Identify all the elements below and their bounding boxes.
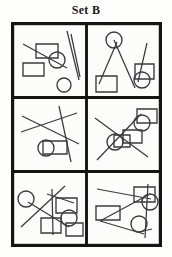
shape-grid-svg: [11, 22, 162, 247]
page-title: Set B: [0, 3, 172, 17]
figure-root: Set B: [0, 0, 172, 257]
shape-grid: [11, 22, 162, 247]
